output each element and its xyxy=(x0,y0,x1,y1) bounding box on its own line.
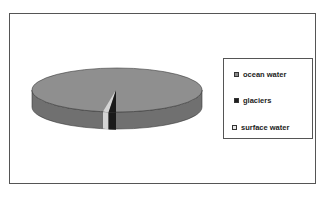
legend-label: ocean water xyxy=(243,70,286,79)
legend-item-ocean-water: ocean water xyxy=(234,68,286,80)
surface-water-swatch-icon xyxy=(232,125,237,130)
legend-label: surface water xyxy=(241,123,289,132)
pie-side-glaciers xyxy=(109,112,117,129)
pie-chart xyxy=(30,66,205,138)
pie-side-surface-water xyxy=(103,112,109,130)
glaciers-swatch-icon xyxy=(234,98,239,103)
chart-legend: ocean water glaciers surface water xyxy=(223,58,313,139)
legend-item-glaciers: glaciers xyxy=(234,94,271,106)
ocean-water-swatch-icon xyxy=(234,72,239,77)
legend-item-surface-water: surface water xyxy=(232,121,289,133)
pie-top-ocean xyxy=(32,68,202,112)
legend-label: glaciers xyxy=(243,96,271,105)
